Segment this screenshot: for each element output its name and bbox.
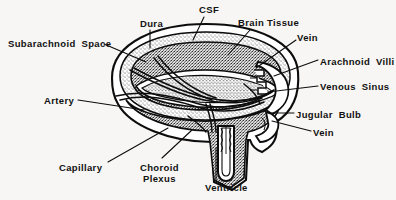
csf-circulation-figure: Subarachnoid Space Dura CSF Brain Tissue…	[0, 0, 396, 200]
choroid-plexus-tuft	[221, 126, 231, 154]
leader-capillary	[108, 128, 168, 162]
label-dura: Dura	[140, 18, 163, 29]
label-choroid-plexus: Choroid Plexus	[140, 162, 179, 184]
label-jugular-bulb: Jugular Bulb	[296, 109, 361, 120]
label-vein-upper: Vein	[297, 32, 318, 43]
label-ventricle: Ventricle	[205, 182, 248, 193]
label-arachnoid-villi: Arachnoid Villi	[320, 56, 395, 67]
label-venous-sinus: Venous Sinus	[320, 81, 389, 92]
label-subarachnoid-space: Subarachnoid Space	[8, 38, 111, 49]
label-vein-lower: Vein	[313, 127, 334, 138]
label-artery: Artery	[44, 95, 74, 106]
label-brain-tissue: Brain Tissue	[238, 17, 299, 28]
label-csf: CSF	[199, 4, 219, 15]
label-capillary: Capillary	[59, 162, 102, 173]
